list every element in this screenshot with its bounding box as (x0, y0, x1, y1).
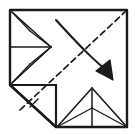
origami-diagram: Origami fold step diagram (0, 0, 135, 135)
origami-svg-canvas: Origami fold step diagram (0, 0, 135, 135)
